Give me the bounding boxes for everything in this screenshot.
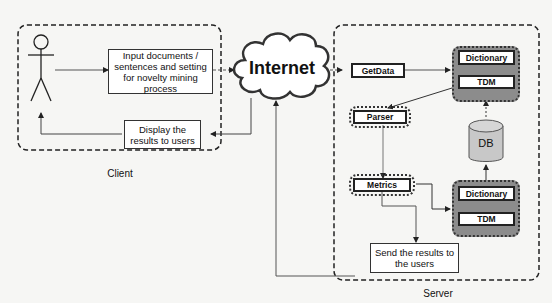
metrics-label: Metrics bbox=[367, 180, 397, 190]
parser-box: Parser bbox=[353, 110, 407, 124]
tdm-box-top: TDM bbox=[458, 75, 515, 89]
user-actor-icon bbox=[28, 35, 54, 101]
parser-label: Parser bbox=[367, 112, 393, 122]
client-caption: Client bbox=[100, 168, 140, 179]
tdm-label-top: TDM bbox=[477, 77, 495, 87]
server-caption: Server bbox=[415, 288, 461, 299]
input-documents-box: Input documents / sentences and setting … bbox=[108, 49, 213, 94]
internet-label: Internet bbox=[249, 58, 315, 79]
send-results-box: Send the results to the users bbox=[370, 243, 459, 273]
getdata-label: GetData bbox=[362, 66, 395, 76]
send-results-label: Send the results to the users bbox=[371, 247, 458, 269]
metrics-box: Metrics bbox=[353, 178, 411, 192]
getdata-box: GetData bbox=[351, 63, 405, 78]
display-results-box: Display the results to users bbox=[124, 120, 201, 149]
tdm-label-bottom: TDM bbox=[477, 214, 495, 224]
dictionary-label-top: Dictionary bbox=[466, 53, 508, 63]
tdm-box-bottom: TDM bbox=[458, 212, 515, 226]
display-results-label: Display the results to users bbox=[125, 124, 200, 146]
input-documents-label: Input documents / sentences and setting … bbox=[112, 50, 209, 94]
db-label: DB bbox=[470, 137, 502, 149]
dictionary-box-bottom: Dictionary bbox=[458, 186, 515, 201]
dictionary-label-bottom: Dictionary bbox=[466, 189, 508, 199]
dictionary-box-top: Dictionary bbox=[458, 50, 515, 65]
